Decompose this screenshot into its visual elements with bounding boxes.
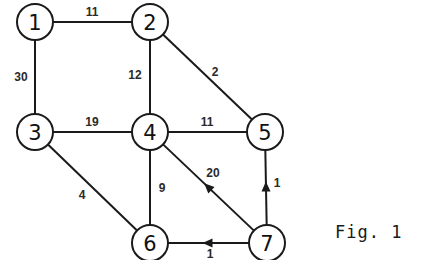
node-label: 7 [260, 232, 273, 256]
node-3: 3 [17, 114, 53, 150]
node-label: 4 [143, 121, 156, 145]
edge-weight-label: 9 [159, 181, 166, 195]
node-label: 1 [28, 11, 41, 35]
node-label: 5 [258, 121, 271, 145]
node-label: 6 [143, 232, 156, 256]
edge-weight-label: 1 [207, 247, 214, 260]
node-5: 5 [247, 114, 283, 150]
edge-weight-label: 1 [274, 176, 281, 190]
edge-3-6 [48, 145, 137, 231]
edge-weight-label: 12 [128, 68, 142, 82]
network-graph: 11301221911492011 1234567 [0, 0, 444, 260]
edge-weight-label: 11 [201, 115, 214, 129]
node-1: 1 [17, 4, 53, 40]
figure-caption: Fig. 1 [335, 222, 402, 242]
edge-weight-label: 19 [85, 115, 99, 129]
edge-weight-label: 30 [14, 70, 28, 84]
node-label: 2 [143, 11, 156, 35]
edge-2-5 [163, 34, 252, 119]
edge-weight-label: 4 [79, 188, 86, 202]
node-4: 4 [132, 114, 168, 150]
node-label: 3 [28, 121, 41, 145]
edge-weight-label: 2 [212, 65, 219, 79]
node-7: 7 [249, 225, 285, 260]
node-6: 6 [132, 225, 168, 260]
edge-weight-label: 20 [206, 166, 220, 180]
arrow-icon [262, 182, 271, 192]
node-2: 2 [132, 4, 168, 40]
edge-weight-label: 11 [86, 5, 99, 19]
